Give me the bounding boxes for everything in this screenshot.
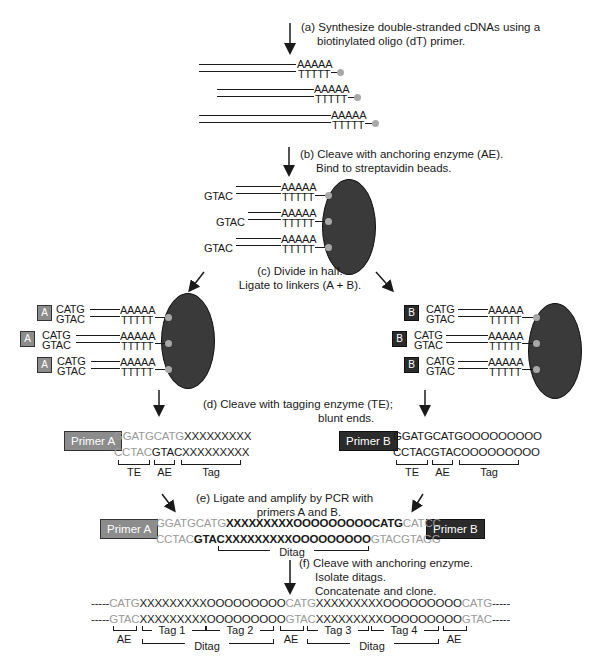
biotin-icon (354, 94, 361, 101)
linker-a-box: A (20, 331, 35, 347)
arrow-e-right (413, 494, 423, 510)
arrow-e-left (162, 494, 174, 510)
step-d-caption: (d) Cleave with tagging enzyme (TE); blu… (203, 397, 393, 425)
linker-a-box: A (37, 357, 52, 373)
poly-t: TTTTT (298, 68, 330, 80)
biotin-icon (325, 218, 332, 225)
step-a-caption: (a) Synthesize double-stranded cDNAs usi… (301, 20, 540, 48)
biotin-icon (372, 120, 379, 127)
biotin-icon (337, 69, 344, 76)
primer-b-box: Primer B (339, 431, 398, 451)
linker-b-box: B (404, 305, 419, 321)
step-f-caption: (f) Cleave with anchoring enzyme. Isolat… (299, 556, 473, 598)
poly-t: TTTTT (332, 119, 364, 131)
linker-b-box: B (392, 331, 407, 347)
arrow-c-left (190, 272, 204, 290)
linker-b-box: B (404, 357, 419, 373)
step-b-caption: (b) Cleave with anchoring enzyme (AE). B… (300, 147, 503, 175)
step-e-caption: (e) Ligate and amplify by PCR with prime… (196, 491, 373, 519)
primer-a-box: Primer A (100, 519, 158, 539)
biotin-icon (325, 244, 332, 251)
linker-a-box: A (37, 305, 52, 321)
step-c-caption: (c) Divide in half.Ligate to linkers (A … (220, 264, 380, 292)
biotin-icon (325, 192, 332, 199)
poly-t: TTTTT (315, 93, 347, 105)
